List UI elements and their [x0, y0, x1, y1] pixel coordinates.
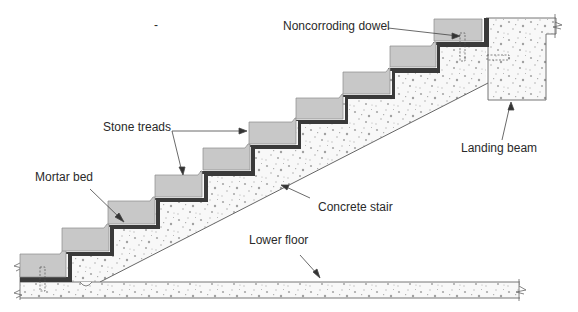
label-noncorroding-dowel: Noncorroding dowel: [283, 19, 390, 33]
label-stone-treads: Stone treads: [103, 120, 171, 134]
tread-1: [20, 250, 66, 277]
label-landing-beam: Landing beam: [461, 141, 537, 155]
stray-mark: -: [154, 18, 158, 32]
landing-beam: [486, 14, 562, 100]
tread-9: [390, 42, 436, 67]
tread-4: [155, 171, 202, 197]
label-lower-floor: Lower floor: [249, 233, 308, 247]
tread-5: [203, 144, 250, 170]
stair-section-diagram: - Noncorroding dowel Stone treads Landin…: [0, 0, 578, 312]
tread-2: [62, 224, 109, 251]
label-concrete-stair: Concrete stair: [318, 200, 393, 214]
label-mortar-bed: Mortar bed: [35, 170, 93, 184]
diagram-drawing: [0, 0, 578, 312]
tread-8: [343, 68, 390, 94]
tread-3: [108, 197, 155, 224]
tread-6: [249, 118, 296, 144]
tread-7: [296, 94, 343, 119]
tread-10: [434, 19, 482, 41]
